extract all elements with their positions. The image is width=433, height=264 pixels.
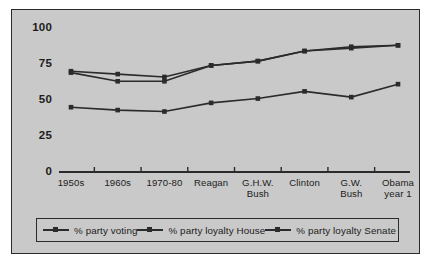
x-axis-category-label: Obama year 1 [371, 178, 425, 199]
y-axis-tick-label: 25 [16, 129, 52, 141]
legend-line-marker-icon [43, 226, 69, 234]
chart-figure: 0255075100 1950s1960s1970-80ReaganG.H.W.… [0, 0, 433, 264]
legend-item-1[interactable]: % party loyalty House [137, 225, 265, 236]
y-axis-tick-label: 0 [16, 165, 52, 177]
data-point-marker [115, 108, 120, 113]
data-point-marker [209, 63, 214, 68]
data-point-marker [256, 96, 261, 101]
legend-item-label: % party loyalty Senate [296, 225, 396, 236]
legend-item-0[interactable]: % party voting [43, 225, 137, 236]
legend-line-marker-icon [265, 226, 291, 234]
data-point-marker [396, 82, 401, 87]
data-point-marker [162, 75, 167, 80]
series-line-2 [71, 84, 398, 111]
data-point-marker [349, 46, 354, 51]
data-point-marker [349, 95, 354, 100]
data-point-marker [302, 49, 307, 54]
data-point-marker [115, 79, 120, 84]
legend-item-label: % party voting [74, 225, 137, 236]
data-point-marker [69, 70, 74, 75]
chart-legend: % party voting% party loyalty House% par… [36, 218, 399, 242]
legend-line-marker-icon [137, 226, 163, 234]
data-point-marker [302, 89, 307, 94]
data-point-marker [396, 43, 401, 48]
data-point-marker [69, 105, 74, 110]
series-line-0 [71, 45, 398, 77]
data-point-marker [162, 79, 167, 84]
y-axis-tick-label: 100 [16, 21, 52, 33]
legend-item-label: % party loyalty House [168, 225, 265, 236]
legend-item-2[interactable]: % party loyalty Senate [265, 225, 396, 236]
data-point-marker [115, 72, 120, 77]
chart-panel: 0255075100 1950s1960s1970-80ReaganG.H.W.… [11, 9, 420, 254]
data-point-marker [209, 101, 214, 106]
data-point-marker [162, 109, 167, 114]
data-point-marker [256, 59, 261, 64]
y-axis-tick-label: 75 [16, 57, 52, 69]
y-axis-tick-label: 50 [16, 93, 52, 105]
series-line-1 [71, 45, 398, 81]
